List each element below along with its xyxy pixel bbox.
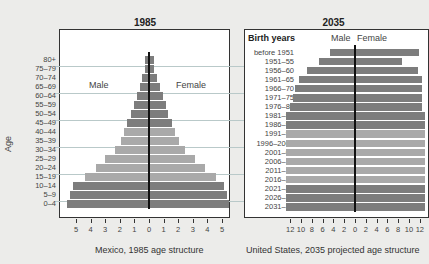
age-label: 1971–75 (234, 93, 294, 102)
age-label: 45–49 (0, 118, 56, 127)
x-tick (301, 219, 302, 223)
x-tick-label: 12 (413, 225, 427, 234)
us-chart-title: 2035 (244, 17, 423, 28)
us-birth-years-label: Birth years (248, 33, 295, 43)
male-bar (286, 167, 355, 175)
x-tick-label: 1 (127, 225, 141, 234)
age-label: 2021–25 (234, 184, 294, 193)
age-label: 55–59 (0, 100, 56, 109)
age-label: 2031–35 (234, 202, 294, 211)
us-caption: United States, 2035 projected age struct… (246, 245, 420, 255)
x-tick (323, 219, 324, 223)
age-label: 2006–10 (234, 157, 294, 166)
x-tick-label: 4 (84, 225, 98, 234)
age-label: 25–29 (0, 154, 56, 163)
age-label: 1976–80 (234, 102, 294, 111)
x-tick (178, 219, 179, 223)
zero-axis-line (148, 52, 150, 209)
age-label: 5–9 (0, 190, 56, 199)
female-bar (150, 182, 224, 190)
x-tick-label: 3 (186, 225, 200, 234)
x-tick (120, 219, 121, 223)
male-bar (134, 101, 149, 109)
male-bar (286, 194, 355, 202)
age-label: 1986–90 (234, 120, 294, 129)
x-tick (105, 219, 106, 223)
female-bar (356, 167, 425, 175)
age-label: 60–64 (0, 91, 56, 100)
male-bar (319, 58, 355, 66)
age-label: 1966–70 (234, 84, 294, 93)
female-bar (150, 83, 160, 91)
x-tick (377, 219, 378, 223)
female-bar (356, 85, 422, 93)
female-bar (150, 110, 168, 118)
x-tick (366, 219, 367, 223)
male-bar (293, 94, 355, 102)
male-bar (290, 103, 355, 111)
age-label: 40–44 (0, 127, 56, 136)
female-bar (150, 101, 166, 109)
female-bar (356, 158, 425, 166)
male-bar (105, 155, 149, 163)
age-label: 2011–15 (234, 166, 294, 175)
x-tick-label: 1 (157, 225, 171, 234)
x-tick (193, 219, 194, 223)
male-bar (286, 112, 355, 120)
age-label: 35–39 (0, 136, 56, 145)
age-label: 80+ (0, 55, 56, 64)
female-bar (150, 164, 205, 172)
female-bar (150, 155, 195, 163)
female-bar (150, 119, 172, 127)
female-bar (150, 92, 163, 100)
x-tick-label: 5 (215, 225, 229, 234)
x-tick (333, 219, 334, 223)
female-bar (356, 94, 422, 102)
male-bar (295, 85, 355, 93)
age-label: 75–79 (0, 64, 56, 73)
zero-axis-line (354, 45, 356, 213)
male-bar (307, 67, 355, 75)
x-tick (149, 219, 150, 223)
age-label: 1981–85 (234, 111, 294, 120)
male-bar (286, 130, 355, 138)
x-tick (355, 219, 356, 223)
x-tick (207, 219, 208, 223)
male-bar (70, 191, 149, 199)
x-tick-label: 2 (113, 225, 127, 234)
x-tick-label: 2 (171, 225, 185, 234)
age-label: 2026–30 (234, 193, 294, 202)
male-bar (73, 182, 149, 190)
x-tick-label: 0 (142, 225, 156, 234)
female-bar (356, 58, 402, 66)
age-label: 2016–20 (234, 175, 294, 184)
male-bar (124, 128, 149, 136)
female-bar (356, 76, 422, 84)
female-bar (150, 74, 157, 82)
male-bar (286, 121, 355, 129)
female-bar (150, 137, 179, 145)
age-label: 50–54 (0, 109, 56, 118)
female-bar (150, 191, 227, 199)
female-bar (150, 56, 154, 64)
x-tick (409, 219, 410, 223)
female-bar (356, 140, 425, 148)
male-bar (286, 140, 355, 148)
female-bar (356, 130, 425, 138)
female-bar (150, 173, 216, 181)
age-label: 1991–95 (234, 129, 294, 138)
male-bar (299, 76, 355, 84)
male-bar (121, 137, 149, 145)
age-label: 1996–2000 (234, 139, 294, 148)
female-bar (150, 146, 185, 154)
us-female-label: Female (357, 33, 387, 43)
female-bar (150, 128, 175, 136)
age-label: 70–74 (0, 73, 56, 82)
x-tick (290, 219, 291, 223)
male-bar (96, 164, 149, 172)
male-bar (85, 173, 149, 181)
age-label: before 1951 (234, 48, 294, 57)
female-bar (356, 121, 425, 129)
male-bar (330, 49, 355, 57)
x-tick (387, 219, 388, 223)
